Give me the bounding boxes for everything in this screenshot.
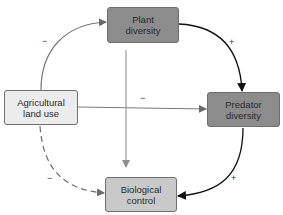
node-label: control bbox=[121, 195, 162, 206]
node-label: Plant bbox=[126, 14, 161, 25]
node-predator-diversity: Predator diversity bbox=[207, 92, 280, 127]
node-agricultural-land-use: Agricultural land use bbox=[4, 90, 78, 125]
sign-predator-bio: + bbox=[231, 174, 236, 183]
node-biological-control: Biological control bbox=[105, 177, 177, 212]
edge-predator-bio bbox=[178, 128, 243, 196]
sign-agri-plant: − bbox=[42, 37, 47, 46]
sign-agri-bio: − bbox=[47, 174, 52, 183]
sign-plant-predator: + bbox=[229, 38, 234, 47]
node-label: diversity bbox=[126, 25, 161, 36]
node-label: Predator bbox=[225, 99, 261, 110]
node-label: Agricultural bbox=[17, 97, 65, 108]
node-label: diversity bbox=[225, 110, 261, 121]
edge-plant-predator bbox=[179, 24, 242, 91]
node-label: Biological bbox=[121, 184, 162, 195]
edge-agri-plant bbox=[41, 22, 106, 90]
node-plant-diversity: Plant diversity bbox=[107, 7, 179, 43]
sign-agri-predator: − bbox=[140, 94, 145, 103]
node-label: land use bbox=[17, 108, 65, 119]
edge-agri-predator bbox=[78, 107, 206, 109]
